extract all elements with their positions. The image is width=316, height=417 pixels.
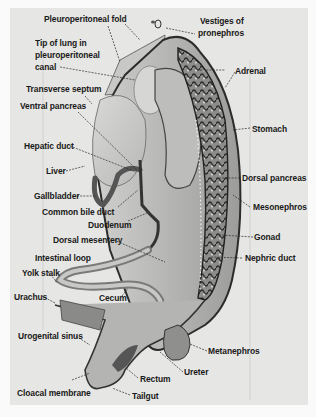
label-vestiges-of-pronephros: pronephros	[198, 28, 244, 38]
label-tip-of-lung: pleuroperitoneal	[35, 50, 100, 60]
label-rectum: Rectum	[140, 374, 170, 384]
label-stomach: Stomach	[252, 124, 287, 134]
pronephros-vestige-shape	[151, 21, 155, 24]
label-adrenal: Adrenal	[235, 66, 266, 76]
label-tip-of-lung: canal	[35, 62, 56, 72]
label-gallbladder: Gallbladder	[34, 191, 79, 201]
label-ventral-pancreas: Ventral pancreas	[20, 101, 86, 111]
label-cecum: Cecum	[99, 293, 127, 303]
label-urachus: Urachus	[14, 292, 47, 302]
label-duodenum: Duodenum	[88, 220, 131, 230]
label-pleuroperitoneal-fold: Pleuroperitoneal fold	[44, 14, 127, 24]
label-cloacal-membrane: Cloacal membrane	[17, 388, 91, 398]
metanephros-shape	[164, 325, 190, 360]
label-metanephros: Metanephros	[208, 346, 260, 356]
label-urogenital-sinus: Urogenital sinus	[18, 331, 83, 341]
label-gonad: Gonad	[254, 232, 280, 242]
label-nephric-duct: Nephric duct	[245, 253, 296, 263]
label-tailgut: Tailgut	[132, 391, 158, 401]
label-liver: Liver	[46, 166, 66, 176]
label-tip-of-lung: Tip of lung in	[35, 38, 87, 48]
label-transverse-septum: Transverse septum	[26, 84, 101, 94]
label-intestinal-loop: Intestinal loop	[35, 253, 91, 263]
label-vestiges-of-pronephros: Vestiges of	[200, 16, 244, 26]
label-dorsal-pancreas: Dorsal pancreas	[242, 173, 306, 183]
diagram-canvas: Pleuroperitoneal fold Vestiges of pronep…	[0, 0, 316, 417]
label-common-bile-duct: Common bile duct	[42, 207, 114, 217]
label-mesonephros: Mesonephros	[253, 202, 307, 212]
label-hepatic-duct: Hepatic duct	[24, 141, 74, 151]
label-yolk-stalk: Yolk stalk	[22, 268, 60, 278]
label-ureter: Ureter	[184, 367, 208, 377]
label-dorsal-mesentery: Dorsal mesentery	[53, 235, 122, 245]
pronephros-vestige-shape	[155, 20, 161, 28]
